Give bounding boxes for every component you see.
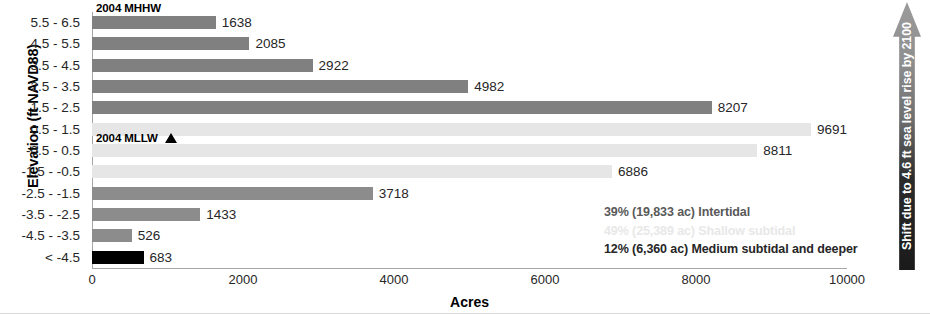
bar-value-label: 1433 <box>206 208 236 222</box>
bar <box>92 187 373 200</box>
bar-value-label: 9691 <box>817 123 847 137</box>
bar <box>92 251 144 264</box>
y-tick-label: -3.5 - -2.5 <box>0 204 86 225</box>
triangle-up-icon <box>165 133 177 143</box>
y-tick-label: 2.5 - 3.5 <box>0 76 86 97</box>
banner-label: Shift due to 4.6 ft sea level rise by 21… <box>900 22 914 250</box>
bar <box>92 208 200 221</box>
bar-value-label: 683 <box>150 251 173 265</box>
y-tick-label: 0.5 - 1.5 <box>0 119 86 140</box>
bar-value-label: 2922 <box>319 59 349 73</box>
y-tick-label: -0.5 - 0.5 <box>0 140 86 161</box>
bar-row: 2085 <box>92 33 847 54</box>
y-tick-label: < -4.5 <box>0 247 86 268</box>
datum-annotation-mhhw: 2004 MHHW <box>96 2 161 14</box>
bar <box>92 165 612 178</box>
bar-row: 3718 <box>92 183 847 204</box>
y-tick-label: -4.5 - -3.5 <box>0 225 86 246</box>
bar-row: 1638 <box>92 12 847 33</box>
y-tick-label: -1.5 - -0.5 <box>0 161 86 182</box>
bar <box>92 123 811 136</box>
y-tick-label: 4.5 - 5.5 <box>0 33 86 54</box>
bar <box>92 144 757 157</box>
y-tick-label: 5.5 - 6.5 <box>0 12 86 33</box>
y-axis-tick-labels: 5.5 - 6.5 4.5 - 5.5 3.5 - 4.5 2.5 - 3.5 … <box>0 12 86 268</box>
x-tick-label: 2000 <box>229 272 258 287</box>
x-tick-label: 0 <box>88 272 95 287</box>
y-tick-label: 3.5 - 4.5 <box>0 55 86 76</box>
bar-row: 4982 <box>92 76 847 97</box>
x-tick-label: 10000 <box>829 272 865 287</box>
bar <box>92 16 216 29</box>
bar-value-label: 3718 <box>379 187 409 201</box>
bar-row: 9691 <box>92 119 847 140</box>
x-axis-title: Acres <box>92 294 847 310</box>
legend: 39% (19,833 ac) Intertidal 49% (25,389 a… <box>604 203 894 259</box>
y-tick-label: -2.5 - -1.5 <box>0 183 86 204</box>
x-tick-label: 6000 <box>531 272 560 287</box>
bar-row: 8207 <box>92 97 847 118</box>
legend-item-medium-subtidal: 12% (6,360 ac) Medium subtidal and deepe… <box>604 240 894 259</box>
bar-value-label: 6886 <box>618 165 648 179</box>
legend-item-shallow-subtidal: 49% (25,389 ac) Shallow subtidal <box>604 222 894 241</box>
datum-annotation-mllw-label: 2004 MLLW <box>96 132 158 144</box>
legend-item-intertidal: 39% (19,833 ac) Intertidal <box>604 203 894 222</box>
bar <box>92 229 132 242</box>
x-axis-tick-labels: 0 2000 4000 6000 8000 10000 <box>92 272 847 292</box>
datum-annotation-mllw: 2004 MLLW <box>96 132 177 144</box>
bar-value-label: 4982 <box>474 80 504 94</box>
bar-row: 8811 <box>92 140 847 161</box>
x-axis-line <box>92 268 847 269</box>
bar-row: 2922 <box>92 55 847 76</box>
bar-value-label: 8811 <box>763 144 792 158</box>
bar-value-label: 1638 <box>222 16 252 30</box>
bar-value-label: 2085 <box>255 37 285 51</box>
bar-row: 6886 <box>92 161 847 182</box>
x-tick-label: 8000 <box>682 272 711 287</box>
bar <box>92 101 712 114</box>
bar-value-label: 526 <box>138 229 161 243</box>
sea-level-rise-elevation-chart: Elevation (ft NAVD88) 5.5 - 6.5 4.5 - 5.… <box>0 0 930 314</box>
bar <box>92 59 313 72</box>
y-tick-label: 1.5 - 2.5 <box>0 97 86 118</box>
x-tick-label: 4000 <box>380 272 409 287</box>
bar <box>92 80 468 93</box>
sea-level-rise-banner: Shift due to 4.6 ft sea level rise by 21… <box>893 2 921 270</box>
bar <box>92 37 249 50</box>
bar-value-label: 8207 <box>718 101 748 115</box>
